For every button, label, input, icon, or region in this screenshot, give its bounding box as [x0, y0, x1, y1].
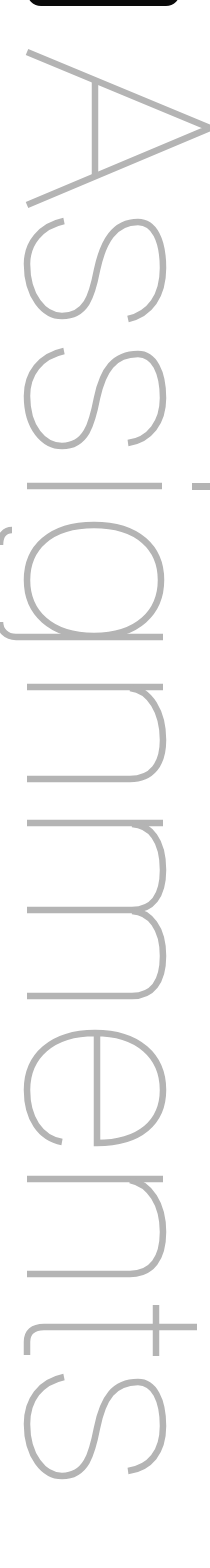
vertical-title-graphic: [0, 0, 210, 1568]
glyph-s-2: [27, 351, 163, 446]
glyph-t: [27, 1305, 197, 1356]
glyph-g: [0, 525, 163, 637]
glyph-s-3: [27, 1377, 163, 1476]
glyph-n-1: [27, 687, 163, 779]
glyph-m: [27, 823, 163, 996]
glyph-s-1: [27, 221, 163, 319]
vertical-title: Assignments: [0, 0, 210, 1568]
glyph-e: [27, 1033, 163, 1143]
glyph-n-2: [27, 1179, 163, 1274]
glyph-A: [27, 52, 210, 205]
glyph-i: [27, 483, 210, 490]
